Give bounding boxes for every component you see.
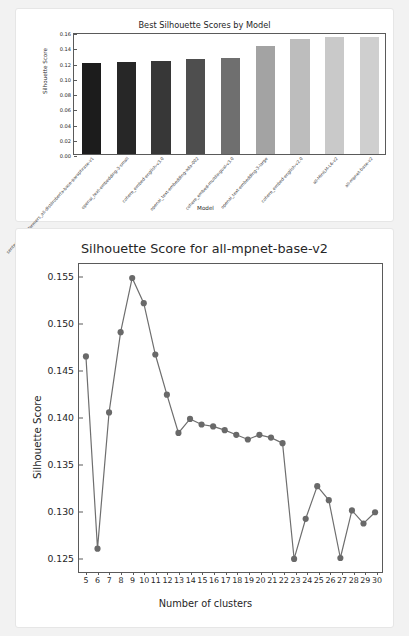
line-chart-x-tick-mark [202,572,203,575]
line-chart-data-point [106,409,112,415]
line-chart-x-tick: 26 [325,576,335,585]
line-chart-data-point [245,436,251,442]
line-chart-data-point [326,497,332,503]
line-chart-x-tick: 24 [302,576,312,585]
line-chart-x-tick: 6 [95,576,100,585]
bar-chart-x-axis-label: Model [16,205,395,211]
line-chart-x-tick: 8 [118,576,123,585]
line-chart-data-point [256,432,262,438]
bar-chart-y-tick: 0.12 [60,62,74,68]
line-chart-data-point [233,432,239,438]
bar-chart-bar [221,58,240,154]
line-chart-x-tick-mark [261,572,262,575]
line-chart-data-point [141,300,147,306]
line-chart-x-tick-mark [319,572,320,575]
line-chart-x-tick-mark [121,572,122,575]
line-chart-data-point [291,556,297,562]
line-chart-data-point [222,427,228,433]
line-chart-x-tick: 11 [151,576,161,585]
line-chart-x-tick: 29 [360,576,370,585]
line-chart-x-tick-mark [98,572,99,575]
screenshot-root: Best Silhouette Scores by Model Silhouet… [0,0,409,636]
line-chart-x-tick: 12 [162,576,172,585]
line-chart-x-tick-mark [214,572,215,575]
line-chart-data-point [360,520,366,526]
line-chart-x-tick-mark [133,572,134,575]
line-chart-x-tick-mark [144,572,145,575]
line-chart-y-tick: 0.155 [47,271,79,282]
line-chart-y-tick: 0.150 [47,318,79,329]
line-chart-x-tick-mark [179,572,180,575]
line-chart-y-tick: 0.125 [47,553,79,564]
line-chart-data-point [314,483,320,489]
line-chart-x-tick: 14 [186,576,196,585]
line-chart-data-point [372,509,378,515]
line-chart-y-tick: 0.135 [47,459,79,470]
line-chart-data-point [210,423,216,429]
bar-chart-y-axis-label: Silhouette Score [42,48,48,94]
bar-chart-x-tick: cohere_embed-english-v2.0 [260,156,304,204]
line-chart-x-tick-mark [307,572,308,575]
line-chart-data-point [187,416,193,422]
bar-chart-bar [256,46,275,154]
line-chart-x-tick: 17 [221,576,231,585]
line-chart-x-tick-mark [330,572,331,575]
line-chart-x-tick: 10 [139,576,149,585]
bar-chart-y-tick: 0.04 [60,123,74,129]
line-chart-x-tick-mark [284,572,285,575]
bar-chart-x-tick: all-MiniLM-L6-v2 [311,156,338,185]
line-chart-y-tick: 0.140 [47,412,79,423]
line-chart-plot-area: 0.1250.1300.1350.1400.1450.1500.15556789… [78,263,383,573]
bar-chart-y-tick: 0.02 [60,138,74,144]
line-chart-panel: Silhouette Score for all-mpnet-base-v2 S… [15,228,394,628]
bar-chart-title: Best Silhouette Scores by Model [16,20,393,30]
line-chart-x-tick: 30 [372,576,382,585]
line-chart-data-point [175,430,181,436]
line-chart-x-tick: 13 [174,576,184,585]
line-chart-x-tick: 7 [107,576,112,585]
bar-chart-y-tick: 0.06 [60,107,74,113]
line-chart-data-point [83,353,89,359]
bar-chart-y-tick: 0.16 [60,31,74,37]
line-chart-line [86,278,375,559]
line-chart-x-tick: 25 [314,576,324,585]
line-chart-data-point [152,351,158,357]
bar-chart-bar [360,37,379,154]
bar-chart-y-tick: 0.10 [60,77,74,83]
line-chart-x-tick: 9 [130,576,135,585]
line-chart-data-point [279,440,285,446]
line-chart-x-tick: 5 [83,576,88,585]
line-chart-x-tick-mark [191,572,192,575]
line-chart-x-tick: 27 [337,576,347,585]
line-chart-data-point [94,546,100,552]
line-chart-x-tick-mark [167,572,168,575]
line-chart-data-point [118,329,124,335]
bar-chart-bar [290,39,309,154]
line-chart-x-tick: 20 [256,576,266,585]
line-chart-x-tick: 18 [232,576,242,585]
line-chart-x-axis-label: Number of clusters [16,598,395,609]
bar-chart-y-tick: 0.14 [60,46,74,52]
line-chart-series-svg [79,264,382,572]
line-chart-x-tick-mark [237,572,238,575]
line-chart-x-tick: 16 [209,576,219,585]
line-chart-data-point [164,392,170,398]
line-chart-x-tick: 19 [244,576,254,585]
line-chart-data-point [199,421,205,427]
line-chart-y-tick: 0.145 [47,365,79,376]
bar-chart-bar [186,59,205,154]
line-chart-x-tick-mark [249,572,250,575]
line-chart-title: Silhouette Score for all-mpnet-base-v2 [16,241,393,256]
bar-chart-bar [151,61,170,154]
line-chart-x-tick: 23 [290,576,300,585]
line-chart-data-point [129,275,135,281]
line-chart-x-tick: 22 [279,576,289,585]
line-chart-x-tick-mark [156,572,157,575]
line-chart-x-tick-mark [226,572,227,575]
line-chart-x-tick-mark [354,572,355,575]
line-chart-x-tick-mark [296,572,297,575]
line-chart-x-tick: 28 [349,576,359,585]
line-chart-y-axis-label: Silhouette Score [32,395,43,479]
line-chart-x-tick-mark [365,572,366,575]
line-chart-x-tick-mark [342,572,343,575]
